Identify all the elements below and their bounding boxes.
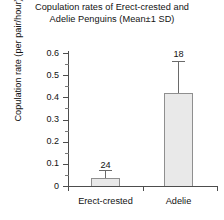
y-tick-label-0.3: 0.3 bbox=[19, 115, 59, 124]
chart-title-line-1: Copulation rates of Erect-crested and bbox=[8, 2, 216, 14]
y-minor-tick-0.45 bbox=[65, 86, 69, 87]
y-minor-tick-0.25 bbox=[65, 131, 69, 132]
error-bar-cap-adelie bbox=[172, 61, 185, 62]
y-tick-0.5 bbox=[63, 75, 69, 76]
y-tick-0.3 bbox=[63, 120, 69, 121]
y-tick-label-0.1: 0.1 bbox=[19, 159, 59, 168]
y-tick-label-0.4: 0.4 bbox=[19, 93, 59, 102]
bar-erect-crested[interactable] bbox=[91, 178, 120, 186]
x-tick-mid bbox=[143, 186, 144, 191]
y-minor-tick-0.15 bbox=[65, 153, 69, 154]
x-tick-right bbox=[217, 186, 218, 191]
y-tick-0.1 bbox=[63, 164, 69, 165]
y-minor-tick-0.35 bbox=[65, 108, 69, 109]
y-tick-label-0.6: 0.6 bbox=[19, 49, 59, 58]
y-tick-0.4 bbox=[63, 97, 69, 98]
bar-adelie[interactable] bbox=[164, 93, 193, 186]
y-tick-0.6 bbox=[63, 53, 69, 54]
y-minor-tick-0.55 bbox=[65, 64, 69, 65]
error-bar-stem-erect-crested bbox=[105, 170, 106, 178]
n-label-adelie: 18 bbox=[159, 49, 199, 59]
y-tick-label-0.2: 0.2 bbox=[19, 137, 59, 146]
x-tick-left bbox=[68, 186, 69, 191]
n-label-erect-crested: 24 bbox=[86, 160, 126, 170]
chart-title: Copulation rates of Erect-crested and Ad… bbox=[8, 2, 216, 25]
y-minor-tick-0.05 bbox=[65, 175, 69, 176]
y-tick-label-0.5: 0.5 bbox=[19, 71, 59, 80]
y-tick-label-0: 0 bbox=[19, 182, 59, 191]
y-tick-0.2 bbox=[63, 142, 69, 143]
y-axis-label: Copulation rate (per pair/hour) bbox=[13, 0, 23, 130]
error-bar-stem-adelie bbox=[178, 61, 179, 93]
figure: Copulation rates of Erect-crested and Ad… bbox=[0, 0, 224, 220]
x-tick-label-adelie: Adelie bbox=[134, 196, 224, 206]
chart-title-line-2: Adelie Penguins (Mean±1 SD) bbox=[8, 14, 216, 26]
error-bar-cap-erect-crested bbox=[99, 170, 112, 171]
